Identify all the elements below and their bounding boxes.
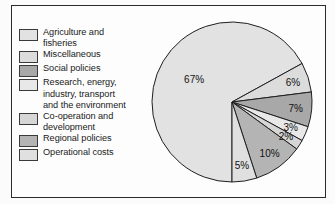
legend-label-agriculture-and-fisheries: Agriculture and fisheries [43, 27, 104, 49]
legend-label-operational-costs: Operational costs [43, 147, 114, 158]
figure-canvas: Agriculture and fisheries Miscellaneous … [0, 0, 335, 204]
legend-label-co-operation-and-development: Co-operation and development [43, 111, 113, 133]
legend-label-miscellaneous: Miscellaneous [43, 49, 101, 60]
legend-swatch-icon-regional-policies [19, 135, 38, 147]
legend-swatch-icon-miscellaneous [19, 51, 38, 63]
legend-label-research-energy-industry-transport-environment: Research, energy, industry, transport an… [43, 77, 126, 111]
legend-item-social-policies[interactable]: Social policies [19, 63, 141, 77]
legend-item-operational-costs[interactable]: Operational costs [19, 147, 141, 161]
chart-legend: Agriculture and fisheries Miscellaneous … [19, 27, 141, 161]
legend-label-regional-policies: Regional policies [43, 133, 112, 144]
legend-swatch-icon-social-policies [19, 65, 38, 77]
legend-swatch-icon-agriculture-and-fisheries [19, 29, 38, 41]
legend-item-regional-policies[interactable]: Regional policies [19, 133, 141, 147]
legend-swatch-icon-research-energy-industry-transport-environment [19, 79, 38, 91]
legend-swatch-icon-operational-costs [19, 149, 38, 161]
legend-item-miscellaneous[interactable]: Miscellaneous [19, 49, 141, 63]
legend-item-co-operation-and-development[interactable]: Co-operation and development [19, 111, 141, 133]
legend-swatch-icon-co-operation-and-development [19, 113, 38, 125]
legend-item-agriculture-and-fisheries[interactable]: Agriculture and fisheries [19, 27, 141, 49]
legend-label-social-policies: Social policies [43, 63, 100, 74]
legend-item-research-energy-industry-transport-environment[interactable]: Research, energy, industry, transport an… [19, 77, 141, 111]
